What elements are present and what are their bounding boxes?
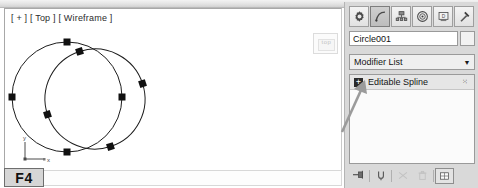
- hierarchy-tab[interactable]: [391, 6, 411, 27]
- gear-icon: [353, 10, 366, 23]
- modifier-stack-toolbar: [349, 167, 475, 184]
- pin-icon: [352, 170, 365, 181]
- toolbar-separator: [391, 170, 392, 182]
- svg-text:D: D: [441, 14, 445, 19]
- light-bulb-icon[interactable]: ⁙: [456, 79, 474, 85]
- curve-icon: [374, 10, 387, 23]
- app-root: [ + ] [ Top ] [ Wireframe ] top: [0, 0, 478, 188]
- svg-text:y: y: [23, 135, 26, 141]
- expand-icon[interactable]: +: [354, 78, 363, 87]
- show-end-result-button[interactable]: [371, 168, 390, 184]
- pin-stack-button[interactable]: [349, 168, 368, 184]
- modifier-list-label: Modifier List: [350, 57, 460, 67]
- modifier-stack[interactable]: + Editable Spline ⁙: [349, 74, 475, 164]
- modifier-list-dropdown[interactable]: Modifier List ▼: [349, 54, 475, 70]
- configure-modifier-sets-button[interactable]: [435, 168, 454, 184]
- motion-tab[interactable]: [412, 6, 432, 27]
- toolbar-separator: [369, 170, 370, 182]
- axis-tripod-icon: y x: [19, 135, 53, 165]
- f4-shortcut-badge: F4: [4, 168, 44, 187]
- svg-text:x: x: [47, 157, 50, 163]
- create-tab[interactable]: [349, 6, 369, 27]
- configure-sets-icon: [439, 171, 450, 181]
- object-color-swatch[interactable]: [460, 31, 475, 46]
- viewport-top[interactable]: [ + ] [ Top ] [ Wireframe ] top: [4, 8, 342, 171]
- utilities-tab[interactable]: [454, 6, 474, 27]
- display-tab[interactable]: D: [433, 6, 453, 27]
- object-name-row: Circle001: [349, 31, 475, 46]
- remove-modifier-button[interactable]: [413, 168, 432, 184]
- view-cube[interactable]: top: [313, 33, 338, 54]
- hammer-icon: [458, 10, 471, 23]
- hierarchy-icon: [395, 10, 408, 23]
- stack-item-editable-spline[interactable]: + Editable Spline ⁙: [350, 75, 474, 90]
- display-icon: D: [437, 10, 450, 23]
- object-name-input[interactable]: Circle001: [349, 31, 458, 46]
- viewport-scene: [5, 9, 341, 170]
- chevron-down-icon: ▼: [460, 59, 474, 66]
- motion-icon: [416, 10, 429, 23]
- command-panel: D Circle001 Modifier List ▼ +: [344, 2, 478, 188]
- status-bar: [44, 170, 342, 186]
- show-end-result-icon: [375, 170, 387, 181]
- view-cube-label: top: [314, 39, 339, 45]
- modify-tab[interactable]: [370, 6, 390, 27]
- make-unique-icon: [397, 170, 409, 181]
- trash-icon: [417, 170, 428, 181]
- command-panel-tabs: D: [349, 6, 475, 27]
- toolbar-separator: [433, 170, 434, 182]
- stack-item-label: Editable Spline: [363, 77, 456, 87]
- make-unique-button[interactable]: [393, 168, 412, 184]
